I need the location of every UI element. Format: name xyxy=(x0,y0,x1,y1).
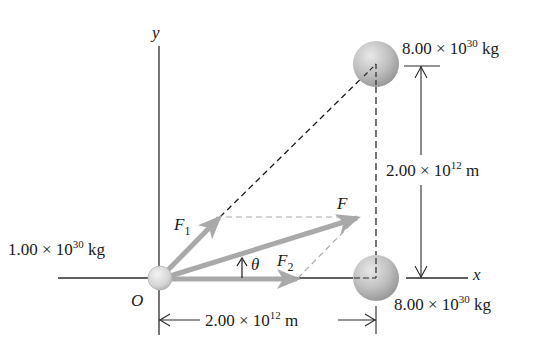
y-axis-label: y xyxy=(150,23,160,42)
dimension-horizontal: 2.00 × 1012 m xyxy=(159,306,376,334)
x-axis-label: x xyxy=(472,265,481,284)
mass-origin xyxy=(148,266,172,290)
origin-label: O xyxy=(131,291,143,310)
angle-theta-indicator: θ xyxy=(237,255,259,278)
masses xyxy=(148,41,399,301)
construction-lines xyxy=(220,64,376,278)
gravitation-force-diagram: y x O 2.00 × 1012 m 2.00 × 1012 m xyxy=(0,0,537,351)
dimension-vertical: 2.00 × 1012 m xyxy=(386,66,479,277)
label-F: F xyxy=(336,194,348,213)
label-F1: F1 xyxy=(173,215,190,238)
mass-origin-label: 1.00 × 1030 kg xyxy=(8,238,106,259)
dashed-line-to-top-mass xyxy=(220,64,376,217)
vertical-distance-label: 2.00 × 1012 m xyxy=(386,159,479,180)
horizontal-distance-label: 2.00 × 1012 m xyxy=(205,309,298,330)
mass-bottom-right-label: 8.00 × 1030 kg xyxy=(394,293,492,314)
mass-top-right-label: 8.00 × 1030 kg xyxy=(402,37,500,58)
label-F2: F2 xyxy=(276,251,293,274)
label-theta: θ xyxy=(251,255,259,274)
force-vectors: F1 F F2 θ xyxy=(166,194,357,279)
